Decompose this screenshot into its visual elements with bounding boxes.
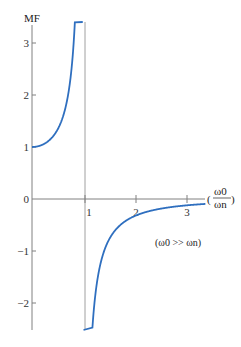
- y-tick-label: −1: [17, 245, 29, 257]
- y-tick-label: −2: [17, 297, 29, 309]
- y-tick-label: 3: [24, 37, 30, 49]
- upper-branch-curve: [32, 22, 83, 147]
- x-tick-label: 3: [184, 206, 190, 218]
- y-tick-label: 2: [24, 89, 30, 101]
- y-axis-title: MF: [24, 12, 40, 24]
- svg-text:(: (: [207, 193, 211, 206]
- x-axis-title: ( ω0 ωn ): [207, 185, 235, 210]
- lower-branch-curve: [84, 204, 206, 330]
- y-tick-label: 0: [24, 193, 30, 205]
- svg-text:ωn: ωn: [214, 198, 227, 210]
- y-tick-label: 1: [24, 141, 30, 153]
- condition-annotation: (ω0 >> ωn): [155, 237, 201, 249]
- svg-text:ω0: ω0: [214, 185, 227, 197]
- x-tick-label: 1: [86, 206, 92, 218]
- magnification-factor-chart: 3 2 1 0 −1 −2 1 2 3 MF ( ω0 ωn ) (ω0 >> …: [0, 0, 241, 347]
- svg-text:): ): [231, 193, 235, 206]
- y-ticks: [32, 43, 36, 303]
